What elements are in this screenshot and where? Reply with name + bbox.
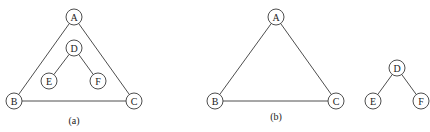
edge-d-f [79,54,94,74]
node-e: E [365,93,381,109]
node-e: E [41,73,57,89]
node-label: B [11,96,18,107]
node-a: A [66,9,82,25]
node-d: D [66,40,82,56]
node-label: F [95,76,101,87]
caption-a: (a) [68,115,79,127]
diagram-panel-b: ABCDEF(b) [207,9,429,123]
edge-d-e [54,54,69,74]
node-b: B [207,93,223,109]
node-f: F [90,73,106,89]
node-label: D [70,43,77,54]
edge-d-e [378,74,393,94]
node-b: B [6,93,22,109]
node-label: C [333,96,340,107]
node-label: E [46,76,52,87]
node-c: C [126,93,142,109]
node-a: A [268,9,284,25]
node-label: B [212,96,219,107]
graph-diagram-canvas: ADEFBC(a) ABCDEF(b) [0,0,430,132]
node-label: F [418,96,424,107]
caption-b: (b) [270,111,282,123]
edge-d-f [402,74,417,94]
node-label: A [272,12,280,23]
node-label: A [70,12,78,23]
node-d: D [389,60,405,76]
edge-a-c [281,24,332,95]
node-label: E [370,96,376,107]
diagram-panel-a: ADEFBC(a) [6,9,142,127]
node-c: C [328,93,344,109]
node-label: D [393,63,400,74]
edge-a-b [220,23,272,94]
node-f: F [413,93,429,109]
node-label: C [131,96,138,107]
